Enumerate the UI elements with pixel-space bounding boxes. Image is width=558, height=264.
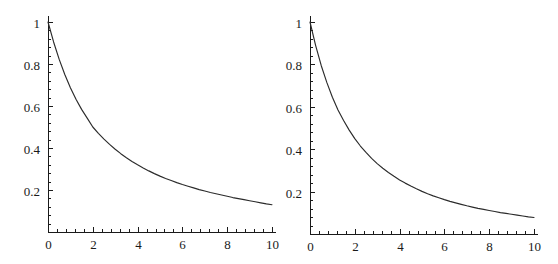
plot-panel-left: 02468100.20.40.60.81: [0, 0, 279, 264]
x-axis-tick-label: 0: [45, 237, 52, 252]
y-axis-tick-label: 1: [34, 16, 41, 31]
x-axis-tick-label: 2: [352, 239, 359, 254]
y-axis-tick-label: 1: [296, 16, 303, 31]
x-axis-tick-label: 2: [90, 237, 97, 252]
data-curve: [48, 22, 272, 205]
x-axis-tick-label: 10: [266, 237, 279, 252]
y-axis-tick-label: 0.2: [286, 186, 302, 201]
y-axis-tick-label: 0.4: [24, 142, 41, 157]
x-axis-tick-label: 8: [486, 239, 493, 254]
x-axis-tick-label: 6: [179, 237, 186, 252]
x-axis-tick-label: 10: [528, 239, 541, 254]
y-axis-tick-label: 0.2: [24, 184, 40, 199]
y-axis-tick-label: 0.4: [286, 143, 303, 158]
y-axis-tick-label: 0.8: [24, 58, 40, 73]
y-axis-tick-label: 0.6: [24, 100, 41, 115]
x-axis-tick-label: 0: [307, 239, 314, 254]
two-panel-figure: 02468100.20.40.60.81 02468100.20.40.60.8…: [0, 0, 558, 264]
y-axis-tick-label: 0.8: [286, 58, 302, 73]
x-axis-tick-label: 4: [135, 237, 142, 252]
data-curve: [310, 22, 534, 217]
x-axis-tick-label: 8: [224, 237, 231, 252]
x-axis-tick-label: 6: [441, 239, 448, 254]
y-axis-tick-label: 0.6: [286, 101, 303, 116]
plot-canvas-right: 02468100.20.40.60.81: [279, 0, 558, 264]
plot-canvas-left: 02468100.20.40.60.81: [0, 0, 279, 264]
x-axis-tick-label: 4: [397, 239, 404, 254]
plot-panel-right: 02468100.20.40.60.81: [279, 0, 558, 264]
